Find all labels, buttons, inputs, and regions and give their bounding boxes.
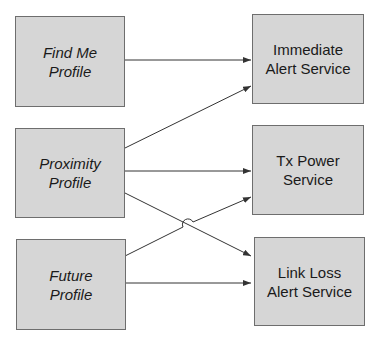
arrow-proximity-to-immediate-alert [125,86,251,148]
link-loss-alert-service-label: Link Loss Alert Service [267,263,352,301]
tx-power-service-box: Tx Power Service [252,125,364,215]
future-profile-box: Future Profile [16,239,126,330]
future-profile-label: Future Profile [49,266,92,304]
proximity-profile-box: Proximity Profile [15,128,125,218]
find-me-profile-box: Find Me Profile [15,16,125,107]
find-me-profile-label: Find Me Profile [43,43,97,81]
tx-power-service-label: Tx Power Service [276,151,339,189]
proximity-profile-label: Proximity Profile [39,154,101,192]
arrow-future-to-tx-power [125,197,251,256]
immediate-alert-service-box: Immediate Alert Service [252,14,364,104]
immediate-alert-service-label: Immediate Alert Service [265,40,350,78]
link-loss-alert-service-box: Link Loss Alert Service [254,237,365,326]
